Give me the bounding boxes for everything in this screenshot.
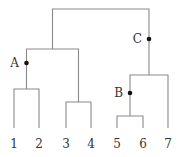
leaf-label-3: 3 xyxy=(62,137,70,151)
leaf-label-1: 1 xyxy=(10,137,18,151)
node-c-dot xyxy=(147,37,152,42)
node-c-label: C xyxy=(133,32,142,46)
branch-cluster-b-7 xyxy=(130,75,168,128)
dendrogram-diagram: A B C 1 2 3 4 5 6 7 xyxy=(0,0,181,157)
branches xyxy=(14,9,168,128)
node-b-dot xyxy=(128,91,133,96)
leaf-label-4: 4 xyxy=(87,137,95,151)
leaf-label-6: 6 xyxy=(139,137,147,151)
leaf-label-7: 7 xyxy=(164,137,172,151)
branch-cluster-a xyxy=(27,49,79,102)
node-a-dot xyxy=(24,61,29,66)
leaf-label-2: 2 xyxy=(35,137,43,151)
dendrogram-svg: A B C 1 2 3 4 5 6 7 xyxy=(0,0,181,157)
node-a-label: A xyxy=(9,56,19,70)
branch-1-2 xyxy=(14,89,39,128)
branch-3-4 xyxy=(66,102,91,128)
branch-5-6 xyxy=(117,116,143,128)
leaf-label-5: 5 xyxy=(113,137,121,151)
node-b-label: B xyxy=(114,86,123,100)
leaf-labels: 1 2 3 4 5 6 7 xyxy=(10,137,172,151)
